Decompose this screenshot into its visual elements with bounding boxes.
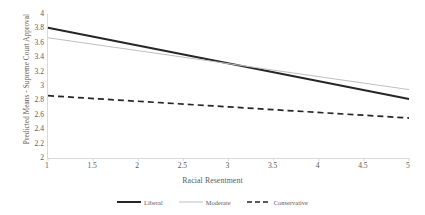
series-lines (48, 14, 409, 158)
x-axis-tick-labels: 11.522.533.544.55 (47, 161, 408, 173)
y-axis-tick-label: 2.2 (18, 140, 44, 148)
legend-line-swatch-icon (179, 198, 203, 206)
y-axis-tick-label: 4 (18, 10, 44, 18)
x-axis-tick-label: 5 (393, 161, 423, 171)
x-axis-tick-label: 3 (213, 161, 243, 171)
series-line-moderate (48, 38, 409, 90)
legend-label: Liberal (144, 199, 163, 206)
x-axis-title: Racial Resentment (0, 176, 425, 185)
legend-item-moderate[interactable]: Moderate (179, 198, 231, 206)
y-axis-tick-label: 3.2 (18, 68, 44, 76)
x-axis-tick-label: 2.5 (167, 161, 197, 171)
x-axis-tick-label: 3.5 (258, 161, 288, 171)
y-axis-tick-label: 3.8 (18, 24, 44, 32)
y-axis-tick-label: 3.4 (18, 53, 44, 61)
y-axis-tick-label: 3 (18, 82, 44, 90)
x-axis-tick-label: 4 (303, 161, 333, 171)
legend-label: Moderate (206, 199, 231, 206)
x-axis-tick-label: 1.5 (77, 161, 107, 171)
y-axis-tick-label: 2.6 (18, 111, 44, 119)
chart-figure: Predicted Means - Supreme Court Approval… (0, 0, 425, 215)
y-axis-tick-label: 2.8 (18, 96, 44, 104)
legend-item-conservative[interactable]: Conservative (247, 198, 308, 206)
legend-line-swatch-icon (247, 198, 271, 206)
chart-legend: LiberalModerateConservative (0, 195, 425, 209)
y-axis-tick-label: 3.6 (18, 39, 44, 47)
legend-item-liberal[interactable]: Liberal (117, 198, 163, 206)
series-line-conservative (48, 96, 409, 118)
legend-line-swatch-icon (117, 198, 141, 206)
x-axis-tick-label: 1 (32, 161, 62, 171)
x-axis-tick-label: 4.5 (348, 161, 378, 171)
x-axis-tick-label: 2 (122, 161, 152, 171)
plot-area (47, 14, 409, 159)
legend-label: Conservative (274, 199, 308, 206)
y-axis-tick-label: 2.4 (18, 125, 44, 133)
